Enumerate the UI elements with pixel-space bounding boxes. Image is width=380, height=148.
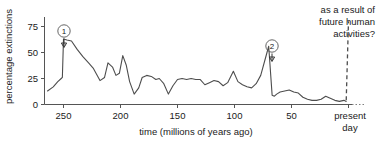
future-annotation-line-2: future human bbox=[319, 16, 375, 27]
marker-2-label: 2 bbox=[270, 42, 275, 51]
y-tick-label-75: 75 bbox=[27, 21, 38, 32]
x-tick-label-50: 50 bbox=[286, 110, 297, 121]
y-axis-ticks bbox=[41, 27, 45, 105]
future-annotation-line-1: as a result of bbox=[321, 4, 376, 15]
annotation-marker-1: 1 bbox=[58, 25, 70, 48]
annotation-marker-2: 2 bbox=[266, 40, 278, 62]
future-activities-annotation: as a result of future human activities? bbox=[319, 4, 375, 39]
extinction-rate-line bbox=[48, 39, 347, 101]
x-axis-title: time (millions of years ago) bbox=[139, 126, 253, 137]
y-tick-label-25: 25 bbox=[27, 73, 38, 84]
x-tick-label-200: 200 bbox=[113, 110, 129, 121]
chart-canvas: 0 25 50 75 percentage extinctions 250 20… bbox=[0, 0, 380, 148]
y-axis-title: percentage extinctions bbox=[3, 9, 14, 104]
x-tick-label-150: 150 bbox=[170, 110, 186, 121]
extinctions-chart-figure: 0 25 50 75 percentage extinctions 250 20… bbox=[0, 0, 380, 148]
marker-1-label: 1 bbox=[62, 27, 67, 36]
x-tick-label-100: 100 bbox=[227, 110, 243, 121]
future-annotation-line-3: activities? bbox=[333, 28, 375, 39]
y-tick-label-0: 0 bbox=[33, 99, 38, 110]
x-tick-label-250: 250 bbox=[56, 110, 72, 121]
x-tick-label-present-day: day bbox=[342, 122, 358, 133]
y-tick-label-50: 50 bbox=[27, 47, 38, 58]
x-axis-ticks bbox=[64, 105, 349, 109]
x-tick-label-present: present bbox=[334, 110, 366, 121]
